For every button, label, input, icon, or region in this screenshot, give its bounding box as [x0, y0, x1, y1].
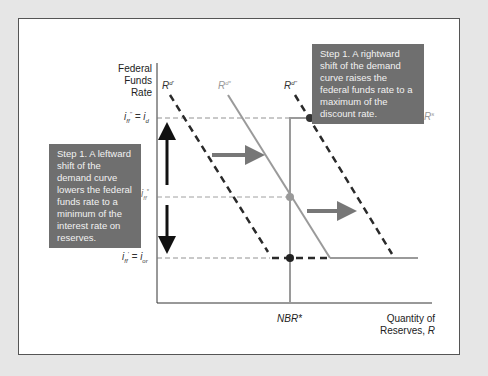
equilibrium-dot-mid	[286, 193, 294, 201]
y-axis-label-line1: Federal	[104, 63, 152, 75]
equilibrium-dot-low	[286, 254, 294, 262]
demand-curve-left	[170, 95, 268, 252]
callout-rightward-shift: Step 1. A rightward shift of the demand …	[312, 44, 424, 124]
equilibrium-rate-label: iff*	[141, 188, 149, 201]
demand-right-label: Rd''	[284, 80, 297, 91]
demand-initial-label: Rd*	[218, 80, 231, 91]
x-axis-label-line2: Reserves, R	[375, 325, 435, 337]
y-axis-label-line2: Funds Rate	[104, 75, 152, 99]
x-axis-label-line1: Quantity of	[375, 313, 435, 325]
supply-label: Rs	[424, 111, 434, 122]
x-axis-label: Quantity of Reserves, R	[375, 313, 435, 337]
reserve-rate-label: iff' = ior	[122, 251, 148, 264]
discount-rate-label: iff'' = id	[124, 111, 149, 124]
demand-left-label: Rd'	[162, 80, 174, 91]
callout-leftward-shift: Step 1. A leftward shift of the demand c…	[49, 144, 141, 248]
y-axis-label: Federal Funds Rate	[104, 63, 152, 99]
nbr-tick-label: NBR*	[277, 313, 302, 324]
